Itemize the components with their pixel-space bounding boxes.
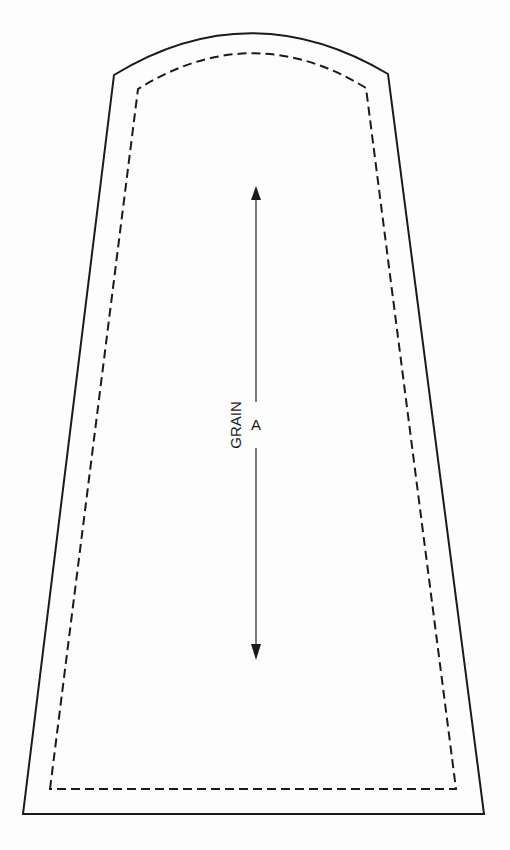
pattern-piece-diagram: GRAIN A: [0, 0, 510, 850]
piece-label: A: [251, 416, 261, 433]
arrow-down-icon: [251, 644, 261, 660]
grain-label: GRAIN: [227, 401, 244, 449]
arrow-up-icon: [251, 186, 261, 200]
